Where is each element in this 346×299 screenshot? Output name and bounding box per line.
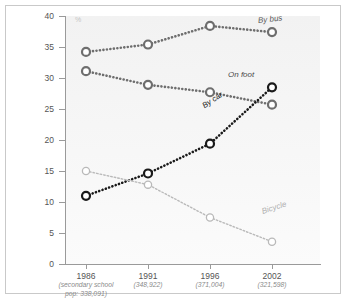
data-point-by-bus-2002	[268, 28, 276, 36]
data-point-bicycle-2002	[268, 238, 275, 245]
data-point-by-car-1991	[144, 169, 152, 177]
series-line-by-bus	[86, 26, 272, 52]
series-line-bicycle	[86, 171, 272, 242]
data-point-on-foot-1991	[144, 81, 152, 89]
data-point-by-car-2002	[268, 83, 276, 91]
data-point-bicycle-1986	[82, 167, 89, 174]
series-plot	[0, 0, 346, 299]
data-point-bicycle-1991	[144, 181, 151, 188]
data-point-by-bus-1996	[206, 22, 214, 30]
data-point-by-bus-1986	[82, 48, 90, 56]
data-point-on-foot-2002	[268, 101, 276, 109]
chart-figure: % 0510152025303540 1986(secondary school…	[0, 0, 346, 299]
data-point-on-foot-1986	[82, 67, 90, 75]
series-line-by-car	[86, 87, 272, 196]
series-label-on-foot: On foot	[228, 70, 254, 79]
data-point-by-car-1986	[82, 192, 90, 200]
data-point-by-car-1996	[206, 140, 214, 148]
data-point-bicycle-1996	[206, 214, 213, 221]
data-point-by-bus-1991	[144, 41, 152, 49]
